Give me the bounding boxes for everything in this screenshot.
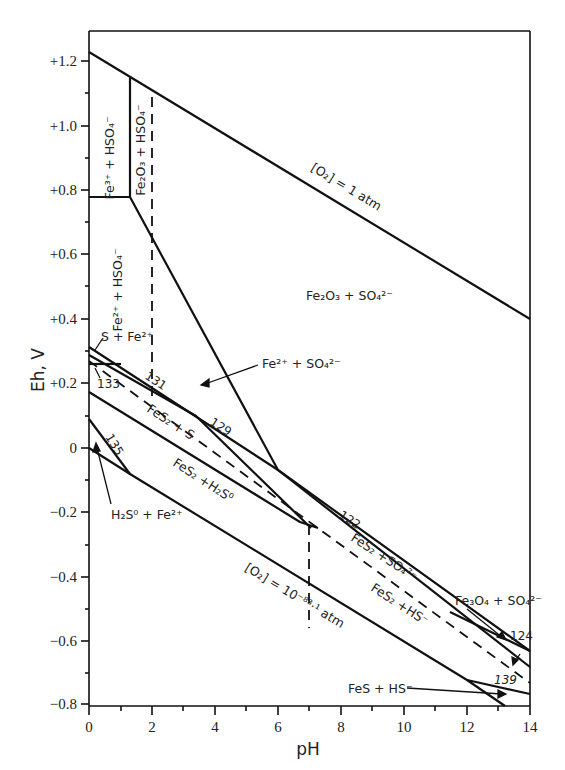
label-fes2-s: FeS₂ + S [144,401,197,443]
x-tick-label: 12 [460,719,475,735]
line-o2-low [89,448,505,706]
y-tick-labels: +1.2 +1.0 +0.8 +0.6 +0.4 +0.2 0 −0.2 −0.… [50,53,78,712]
label-fe2o3-so4: Fe₂O₃ + SO₄²⁻ [306,288,393,303]
x-axis-ticks [89,706,530,715]
label-o2-low: [O₂] = 10⁻⁸³·¹ atm [242,560,347,631]
y-axis-title: Eh, V [28,348,48,392]
y-tick-label: +0.8 [50,182,77,198]
x-tick-label: 2 [148,719,156,735]
label-133: 133 [97,377,120,391]
line-o2-1atm [89,52,530,319]
x-tick-label: 10 [397,719,412,735]
label-129: 129 [207,415,234,439]
y-tick-label: −0.4 [50,569,78,585]
label-fe2-hso4: Fe²⁺ + HSO₄⁻ [110,248,125,331]
label-fe3-hso4: Fe³⁺ + HSO₄⁻ [102,116,117,199]
y-tick-label: +0.2 [50,375,77,391]
y-tick-label: 0 [70,440,78,456]
x-tick-labels: 0 2 4 6 8 10 12 14 [85,719,538,735]
label-o2-1atm: [O₂] = 1 atm [308,160,384,214]
label-s-fe2: S + Fe²⁺ [101,329,153,344]
x-tick-label: 4 [211,719,219,735]
y-tick-label: −0.8 [50,696,77,712]
x-tick-label: 0 [85,719,93,735]
label-fe3o4-so4: Fe₃O₄ + SO₄²⁻ [455,593,542,608]
y-tick-label: +0.4 [50,311,78,327]
label-fe2-so4: Fe²⁺ + SO₄²⁻ [262,356,341,371]
label-124: 124 [510,629,533,643]
x-axis-title: pH [296,739,320,759]
label-fes-hs: FeS + HS⁻ [348,681,412,696]
y-tick-label: +1.0 [50,118,77,134]
label-fe2o3-hso4: Fe₂O₃ + HSO₄⁻ [133,104,148,195]
eh-ph-diagram: +1.2 +1.0 +0.8 +0.6 +0.4 +0.2 0 −0.2 −0.… [0,0,565,770]
label-h2s-fe2: H₂S⁰ + Fe²⁺ [111,507,183,522]
label-139: 139 [494,673,517,687]
x-tick-label: 6 [274,719,282,735]
y-tick-label: +1.2 [50,53,77,69]
y-tick-label: −0.6 [50,633,78,649]
y-axis-ticks [81,61,89,704]
region-labels: Fe³⁺ + HSO₄⁻ Fe₂O₃ + HSO₄⁻ Fe²⁺ + HSO₄⁻ … [97,104,542,696]
y-tick-label: +0.6 [50,246,78,262]
y-tick-label: −0.2 [50,504,77,520]
x-tick-label: 8 [337,719,345,735]
x-tick-label: 14 [523,719,539,735]
label-135: 135 [102,431,126,458]
